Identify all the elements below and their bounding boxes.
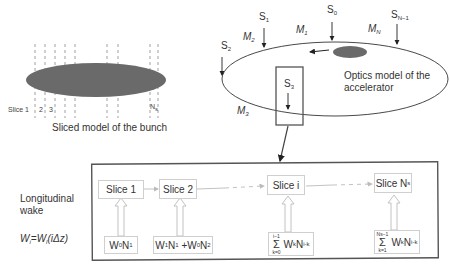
kick-box-ns: Ns−1Σk=1WkNi-k [374, 230, 420, 254]
map-m1-label: M1 [296, 24, 308, 36]
slice-box-i: Slice i [267, 175, 305, 195]
wake-label-line1: Longitudinal [20, 193, 74, 205]
wake-label-line2: wake [20, 205, 74, 217]
bunch-ellipse [26, 63, 166, 97]
accelerator-caption: Optics model of the accelerator [344, 70, 430, 94]
map-m2-label: M2 [243, 31, 255, 43]
zoom-connector-arrow [280, 126, 288, 161]
kick-box-2: W1N1 +W0N2 [153, 236, 213, 254]
accelerator-caption-line2: accelerator [344, 82, 430, 94]
section-s2-label: S2 [221, 40, 231, 52]
wake-formula: Wi=Wl(iΔz) [20, 233, 68, 245]
bunch-caption: Sliced model of the bunch [52, 122, 167, 133]
map-mn-label: MN [368, 23, 381, 35]
kick-box-1: W0N1 [104, 236, 138, 254]
slice-box-2: Slice 2 [159, 179, 197, 199]
slice-1-label: Slice 1 [8, 106, 29, 113]
kick-box-i: i−1Σk=0WkNi-k [268, 232, 314, 256]
map-m3-label: M3 [237, 105, 249, 117]
slice-3-label: 3 [49, 106, 53, 113]
section-s0-label: S0 [327, 4, 337, 16]
wake-label: Longitudinal wake [20, 193, 74, 217]
section-sn-1-label: SN−1 [391, 9, 409, 21]
kick-arrows [115, 195, 400, 236]
section-highlight-box [276, 67, 303, 125]
accelerator-caption-line1: Optics model of the [344, 70, 430, 82]
slice-2-label: 2 [39, 106, 43, 113]
direction-arrow [310, 50, 329, 52]
ring-bunch [333, 46, 367, 58]
slice-box-ns: Slice Ns [374, 173, 412, 193]
slice-box-1: Slice 1 [98, 180, 144, 199]
section-s1-label: S1 [259, 11, 269, 23]
section-s3-label: S3 [284, 78, 294, 90]
slice-ns-label: Ns [150, 103, 158, 112]
